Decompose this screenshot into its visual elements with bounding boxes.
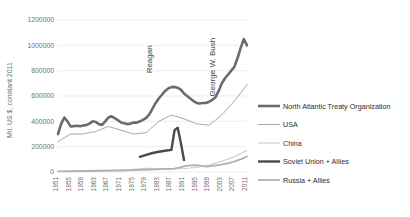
legend-label: USA (283, 120, 298, 129)
x-tick-label: 2003 (216, 177, 223, 192)
x-tick-label: 1995 (191, 177, 198, 192)
x-tick-label: 1951 (52, 177, 59, 192)
y-tick-label: 200000 (31, 143, 54, 150)
y-axis-title: Mil. US $, constant 2011 (6, 62, 13, 138)
x-tick-label: 1963 (90, 177, 97, 192)
x-tick-label: 1971 (115, 177, 122, 192)
legend-label: China (283, 139, 302, 148)
x-tick-label: 2007 (228, 177, 235, 192)
x-axis-tick-labels: 1951195519591963196719711975197919831987… (52, 177, 248, 192)
y-tick-label: 400000 (31, 118, 54, 125)
line-chart: 020000040000060000080000010000001200000 … (0, 0, 410, 217)
series-line (58, 156, 247, 171)
chart-annotations: ReaganGeorge W. Bush (146, 38, 218, 97)
x-tick-label: 1999 (203, 177, 210, 192)
y-tick-label: 0 (50, 168, 54, 175)
x-tick-label: 1987 (165, 177, 172, 192)
y-axis-tick-labels: 020000040000060000080000010000001200000 (28, 16, 55, 175)
x-tick-label: 1979 (140, 177, 147, 192)
x-tick-label: 2011 (241, 177, 248, 191)
annotation-label: George W. Bush (209, 38, 218, 97)
gridlines-group (58, 20, 247, 172)
annotation-label: Reagan (146, 45, 155, 73)
x-tick-label: 1959 (77, 177, 84, 192)
legend-label: Russia + Allies (283, 176, 330, 185)
y-tick-label: 800000 (31, 67, 54, 74)
x-tick-label: 1983 (153, 177, 160, 192)
y-tick-label: 1200000 (28, 16, 55, 23)
x-tick-label: 1991 (178, 177, 185, 192)
chart-container: 020000040000060000080000010000001200000 … (0, 0, 410, 217)
legend-label: North Atlantic Treaty Organization (283, 102, 390, 111)
chart-legend: North Atlantic Treaty OrganizationUSAChi… (258, 102, 390, 185)
x-tick-label: 1955 (65, 177, 72, 192)
y-tick-label: 600000 (31, 92, 54, 99)
x-tick-label: 1975 (128, 177, 135, 192)
x-tick-label: 1967 (102, 177, 109, 192)
y-tick-label: 1000000 (28, 42, 55, 49)
legend-label: Soviet Union + Allies (283, 157, 349, 166)
